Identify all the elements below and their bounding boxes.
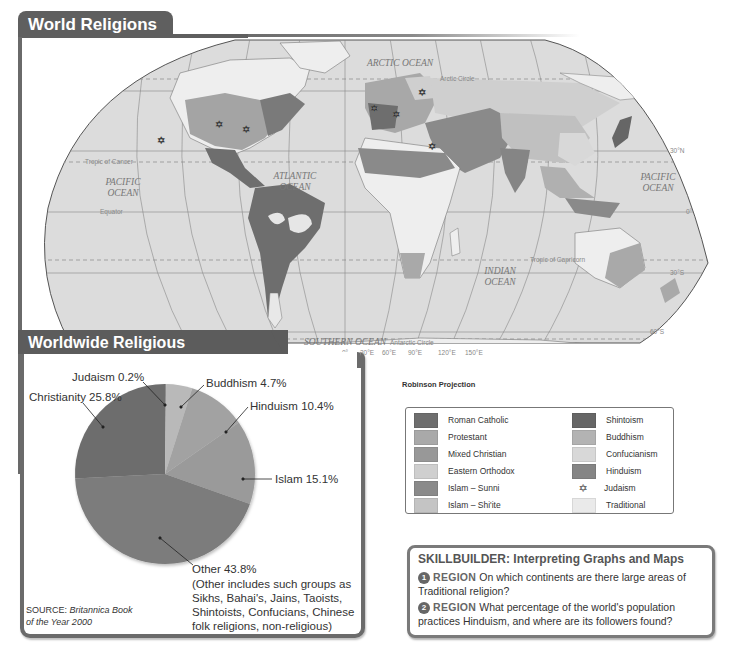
svg-text:✡: ✡ [428, 141, 436, 152]
svg-text:PACIFIC: PACIFIC [639, 172, 676, 182]
skillbuilder-question-2: 2REGIONWhat percentage of the world's po… [418, 600, 708, 628]
legend-label: Roman Catholic [448, 415, 508, 425]
legend-item-roman-catholic: Roman Catholic [414, 412, 508, 428]
svg-text:Equator: Equator [100, 208, 124, 216]
source-prefix: SOURCE: [26, 605, 70, 615]
mixed-christian-swatch [414, 447, 438, 462]
pie-panel-corner [357, 352, 361, 368]
map-legend: Roman Catholic Protestant Mixed Christia… [405, 407, 674, 514]
pie-title-cap [270, 330, 284, 354]
svg-text:OCEAN: OCEAN [107, 188, 139, 198]
svg-text:ATLANTIC: ATLANTIC [273, 171, 318, 181]
source-title: of the Year 2000 [26, 617, 92, 627]
svg-text:Arctic Circle: Arctic Circle [440, 75, 475, 82]
legend-item-confucianism: Confucianism [572, 446, 658, 462]
eastern-orthodox-swatch [414, 464, 438, 479]
svg-text:Tropic of Cancer: Tropic of Cancer [85, 158, 134, 166]
legend-label: Islam – Shi'ite [448, 500, 501, 510]
legend-item-traditional: Traditional [572, 497, 645, 513]
legend-item-eastern-orthodox: Eastern Orthodox [414, 463, 515, 479]
svg-text:✡: ✡ [215, 119, 223, 130]
svg-text:OCEAN: OCEAN [484, 277, 516, 287]
legend-item-hinduism: Hinduism [572, 463, 641, 479]
legend-label: Buddhism [606, 432, 644, 442]
legend-item-protestant: Protestant [414, 429, 487, 445]
svg-text:OCEAN: OCEAN [279, 182, 311, 192]
source-title: Britannica Book [70, 605, 133, 615]
islam-shiite-swatch [414, 498, 438, 513]
shintoism-swatch [572, 413, 596, 428]
svg-text:60°E: 60°E [382, 349, 397, 356]
svg-text:90°E: 90°E [408, 349, 423, 356]
projection-label: Robinson Projection [402, 380, 475, 389]
question-tag: REGION [433, 601, 476, 613]
source-citation: SOURCE: Britannica Book of the Year 2000 [26, 604, 133, 628]
svg-text:0°: 0° [686, 208, 693, 215]
buddhism-label: Buddhism 4.7% [206, 377, 287, 389]
number-badge-icon: 1 [418, 572, 430, 584]
legend-label: Confucianism [606, 449, 658, 459]
other-note-line: (Other includes such groups as [192, 577, 354, 591]
other-note-line: Shintoists, Confucians, Chinese [192, 605, 354, 619]
legend-label: Judaism [604, 483, 636, 493]
svg-text:Antarctic Circle: Antarctic Circle [390, 339, 434, 346]
svg-text:30°N: 30°N [670, 147, 685, 154]
svg-text:INDIAN: INDIAN [483, 266, 516, 276]
svg-text:✡: ✡ [242, 124, 250, 135]
hinduism-swatch [572, 464, 596, 479]
legend-item-islam-shiite: Islam – Shi'ite [414, 497, 501, 513]
svg-text:ARCTIC OCEAN: ARCTIC OCEAN [366, 58, 434, 68]
svg-text:30°S: 30°S [670, 269, 685, 276]
legend-label: Protestant [448, 432, 487, 442]
legend-item-mixed-christian: Mixed Christian [414, 446, 507, 462]
legend-label: Eastern Orthodox [448, 466, 515, 476]
traditional-swatch [572, 498, 596, 513]
roman-catholic-swatch [414, 413, 438, 428]
svg-text:Tropic of Capricorn: Tropic of Capricorn [530, 256, 585, 264]
svg-text:PACIFIC: PACIFIC [104, 177, 141, 187]
legend-item-islam-sunni: Islam – Sunni [414, 480, 500, 496]
skillbuilder-box: SKILLBUILDER: Interpreting Graphs and Ma… [407, 545, 715, 638]
legend-label: Traditional [606, 500, 645, 510]
svg-text:150°E: 150°E [465, 349, 483, 356]
legend-label: Shintoism [606, 415, 643, 425]
svg-text:60°S: 60°S [650, 328, 665, 335]
number-badge-icon: 2 [418, 602, 430, 614]
islam-label: Islam 15.1% [275, 473, 338, 485]
other-label: Other 43.8% [192, 563, 257, 575]
buddhism-swatch [572, 430, 596, 445]
map-title: World Religions [18, 11, 173, 37]
skillbuilder-title: SKILLBUILDER: Interpreting Graphs and Ma… [418, 552, 684, 566]
legend-item-buddhism: Buddhism [572, 429, 644, 445]
star-of-david-icon: ✡ [572, 482, 594, 495]
legend-item-judaism: ✡ Judaism [572, 480, 636, 496]
other-note-line: Sikhs, Bahai's, Jains, Taoists, [192, 591, 354, 605]
question-tag: REGION [433, 571, 476, 583]
legend-label: Mixed Christian [448, 449, 507, 459]
legend-item-shintoism: Shintoism [572, 412, 643, 428]
islam-sunni-swatch [414, 481, 438, 496]
protestant-swatch [414, 430, 438, 445]
svg-text:✡: ✡ [370, 103, 378, 114]
svg-text:✡: ✡ [418, 87, 426, 98]
svg-text:120°E: 120°E [438, 349, 456, 356]
other-note: (Other includes such groups as Sikhs, Ba… [192, 577, 354, 633]
legend-label: Hinduism [606, 466, 641, 476]
svg-text:✡: ✡ [157, 135, 165, 146]
svg-text:✡: ✡ [392, 109, 400, 120]
legend-label: Islam – Sunni [448, 483, 500, 493]
skillbuilder-question-1: 1REGIONOn which continents are there lar… [418, 570, 708, 598]
confucianism-swatch [572, 447, 596, 462]
svg-text:OCEAN: OCEAN [642, 183, 674, 193]
judaism-label: Judaism 0.2% [72, 371, 144, 383]
other-note-line: folk religions, non-religious) [192, 619, 354, 633]
pie-chart-title: Worldwide Religious Membership [18, 330, 288, 354]
christianity-label: Christianity 25.8% [29, 391, 122, 403]
hinduism-label: Hinduism 10.4% [250, 400, 334, 412]
svg-text:SOUTHERN OCEAN: SOUTHERN OCEAN [304, 337, 387, 347]
